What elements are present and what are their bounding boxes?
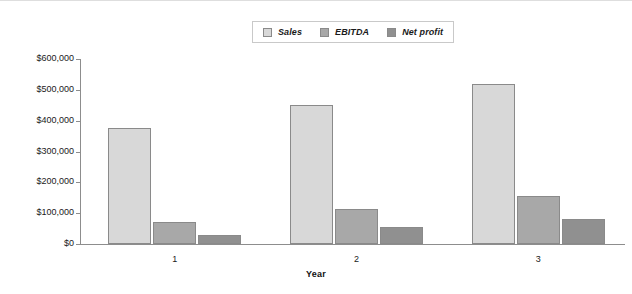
bar [562,219,605,244]
y-axis-tick [76,121,81,122]
chart-legend: SalesEBITDANet profit [252,21,454,43]
y-axis-tick [76,213,81,214]
y-axis-tick [76,244,81,245]
legend-label: EBITDA [335,27,369,37]
y-axis-tick-label: $200,000 [8,176,74,186]
bar [290,105,333,244]
bar [108,128,151,244]
y-axis-tick [76,59,81,60]
legend-entry[interactable]: Net profit [387,27,443,37]
x-axis-tick-label: 1 [172,254,177,264]
bar [380,227,423,244]
legend-label: Net profit [402,27,443,37]
plot-area: $0$100,000$200,000$300,000$400,000$500,0… [80,59,625,244]
y-axis-tick [76,152,81,153]
bar [153,222,196,245]
y-axis-tick-label: $100,000 [8,207,74,217]
y-axis-tick [76,90,81,91]
y-axis-tick-label: $400,000 [8,115,74,125]
bar [472,84,515,244]
y-axis-tick-label: $600,000 [8,53,74,63]
x-axis-title: Year [0,269,632,279]
legend-swatch-icon [320,28,329,37]
y-axis-tick-label: $300,000 [8,146,74,156]
legend-swatch-icon [263,28,272,37]
y-axis-tick-label: $0 [8,238,74,248]
legend-swatch-icon [387,28,396,37]
y-axis-tick [76,182,81,183]
legend-entry[interactable]: Sales [263,27,302,37]
bar [335,209,378,244]
y-axis-tick-label: $500,000 [8,84,74,94]
bar [517,196,560,244]
x-axis-line [80,244,625,245]
bar-chart: SalesEBITDANet profit $0$100,000$200,000… [0,0,632,294]
bar [198,235,241,244]
legend-entry[interactable]: EBITDA [320,27,369,37]
legend-label: Sales [278,27,302,37]
x-axis-tick-label: 2 [354,254,359,264]
x-axis-tick-label: 3 [536,254,541,264]
